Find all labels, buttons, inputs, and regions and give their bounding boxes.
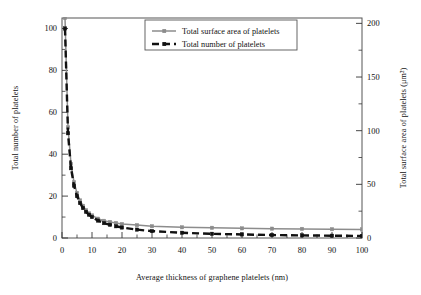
data-point-marker: [114, 221, 117, 224]
legend-marker-0: [162, 29, 166, 33]
y-tick-label: 40: [49, 150, 57, 159]
y-tick-label: 60: [49, 108, 57, 117]
data-point-marker: [180, 226, 183, 229]
data-point-marker: [108, 223, 111, 226]
data-point-marker: [135, 228, 138, 231]
legend-marker-1: [162, 42, 166, 46]
data-point-marker: [270, 227, 273, 230]
data-point-marker: [240, 227, 243, 230]
x-tick-label: 70: [268, 246, 276, 255]
chart-figure: 0102030405060708090100020406080100050100…: [0, 0, 421, 295]
y-tick-label: 20: [49, 192, 57, 201]
data-point-marker: [240, 233, 243, 236]
y2-tick-label: 0: [367, 234, 371, 243]
x-tick-label: 40: [178, 246, 186, 255]
y2-tick-label: 50: [367, 180, 375, 189]
data-point-marker: [78, 201, 81, 204]
data-point-marker: [66, 132, 69, 135]
data-point-marker: [270, 233, 273, 236]
data-point-marker: [102, 221, 105, 224]
y2-tick-label: 150: [367, 73, 380, 82]
data-point-marker: [96, 219, 99, 222]
chart-legend: Total surface area of plateletsTotal num…: [145, 20, 297, 50]
x-tick-label: 10: [88, 246, 96, 255]
legend-label-0: Total surface area of platelets: [182, 27, 280, 36]
data-point-marker: [75, 194, 78, 197]
data-point-marker: [120, 222, 123, 225]
y2-axis-title: Total surface area of platelets (μm²): [399, 67, 408, 188]
x-tick-label: 30: [148, 246, 156, 255]
data-point-marker: [180, 231, 183, 234]
data-point-marker: [300, 234, 303, 237]
y2-tick-label: 100: [367, 127, 380, 136]
data-point-marker: [135, 223, 138, 226]
y-tick-label: 100: [44, 24, 57, 33]
data-point-marker: [150, 224, 153, 227]
data-point-marker: [210, 226, 213, 229]
data-point-marker: [114, 225, 117, 228]
data-point-marker: [330, 234, 333, 237]
data-point-marker: [120, 226, 123, 229]
x-tick-label: 20: [118, 246, 126, 255]
x-tick-label: 60: [238, 246, 246, 255]
y-tick-label: 80: [49, 66, 57, 75]
data-point-marker: [69, 167, 72, 170]
y-tick-label: 0: [53, 234, 57, 243]
data-point-marker: [90, 215, 93, 218]
x-tick-label: 0: [60, 246, 64, 255]
data-point-marker: [72, 184, 75, 187]
x-tick-label: 100: [356, 246, 369, 255]
y2-tick-label: 200: [367, 19, 380, 28]
x-tick-label: 50: [208, 246, 216, 255]
data-point-marker: [150, 229, 153, 232]
data-point-marker: [210, 232, 213, 235]
data-point-marker: [330, 228, 333, 231]
x-tick-label: 90: [328, 246, 336, 255]
data-point-marker: [300, 227, 303, 230]
y-axis-title: Total number of platelets: [11, 86, 20, 170]
legend-label-1: Total number of platelets: [182, 40, 265, 49]
data-point-marker: [63, 27, 66, 30]
data-point-marker: [81, 206, 84, 209]
x-axis-title: Average thickness of graphene platelets …: [136, 273, 288, 282]
x-tick-label: 80: [298, 246, 306, 255]
